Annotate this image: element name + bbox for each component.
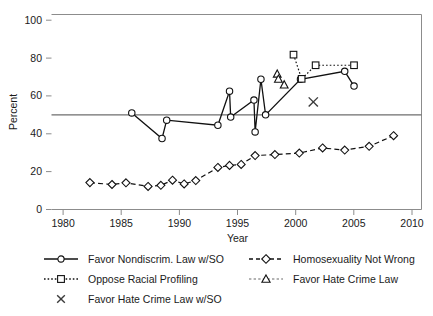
legend-label-favor-hate-crime-law: Favor Hate Crime Law bbox=[293, 273, 398, 285]
y-tick-label-80: 80 bbox=[30, 52, 42, 64]
y-tick-label-20: 20 bbox=[30, 165, 42, 177]
y-tick-label-100: 100 bbox=[24, 14, 42, 26]
x-tick-label-1985: 1985 bbox=[110, 217, 134, 229]
legend-item-favor-hate-crime-law[interactable]: Favor Hate Crime Law bbox=[249, 273, 398, 285]
x-tick-label-2010: 2010 bbox=[400, 217, 424, 229]
circle-icon bbox=[226, 88, 232, 94]
square-icon bbox=[312, 62, 319, 69]
circle-icon bbox=[258, 76, 264, 82]
x-tick-label-1990: 1990 bbox=[168, 217, 192, 229]
legend-item-favor-nondiscrim-law[interactable]: Favor Nondiscrim. Law w/SO bbox=[44, 253, 224, 265]
circle-icon bbox=[129, 110, 135, 116]
x-tick-label-1980: 1980 bbox=[51, 217, 75, 229]
square-icon bbox=[58, 276, 65, 283]
circle-icon bbox=[351, 83, 357, 89]
circle-icon bbox=[262, 112, 268, 118]
x-icon bbox=[57, 295, 65, 303]
circle-icon bbox=[251, 97, 257, 103]
legend-label-favor-nondiscrim-law: Favor Nondiscrim. Law w/SO bbox=[88, 253, 224, 265]
circle-icon bbox=[252, 129, 258, 135]
circle-icon bbox=[227, 114, 233, 120]
square-icon bbox=[290, 51, 297, 58]
x-tick-label-2005: 2005 bbox=[342, 217, 366, 229]
circle-icon bbox=[215, 122, 221, 128]
y-tick-label-60: 60 bbox=[30, 89, 42, 101]
x-axis-title: Year bbox=[227, 232, 249, 244]
legend-label-favor-hate-crime-law-wso: Favor Hate Crime Law w/SO bbox=[88, 293, 222, 305]
legend-label-oppose-racial-profiling: Oppose Racial Profiling bbox=[88, 273, 198, 285]
y-tick-label-0: 0 bbox=[36, 203, 42, 215]
legend-label-homosexuality-not-wrong: Homosexuality Not Wrong bbox=[293, 253, 415, 265]
circle-icon bbox=[58, 256, 64, 262]
y-tick-label-40: 40 bbox=[30, 127, 42, 139]
legend-item-homosexuality-not-wrong[interactable]: Homosexuality Not Wrong bbox=[249, 253, 415, 265]
circle-icon bbox=[163, 117, 169, 123]
legend-item-oppose-racial-profiling[interactable]: Oppose Racial Profiling bbox=[44, 273, 198, 285]
square-icon bbox=[351, 62, 358, 69]
circle-icon bbox=[159, 135, 165, 141]
x-tick-label-2000: 2000 bbox=[284, 217, 308, 229]
chart-figure: 0 20 40 60 80 100 Percent bbox=[0, 0, 433, 316]
chart-legend: Favor Nondiscrim. Law w/SO Homosexuality… bbox=[0, 248, 433, 316]
y-axis-title: Percent bbox=[7, 94, 19, 130]
legend-item-favor-hate-crime-law-wso[interactable]: Favor Hate Crime Law w/SO bbox=[57, 293, 221, 305]
square-icon bbox=[298, 76, 305, 83]
circle-icon bbox=[342, 68, 348, 74]
diamond-icon bbox=[262, 255, 271, 264]
x-tick-label-1995: 1995 bbox=[226, 217, 250, 229]
